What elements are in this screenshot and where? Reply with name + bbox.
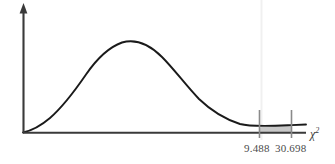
tick-label-lower-critical: 9.488 <box>244 142 270 154</box>
chi-square-density-curve <box>23 41 306 132</box>
distribution-plot <box>0 0 335 164</box>
chi-square-distribution-figure: 9.488 30.698 χ2 <box>0 0 335 164</box>
x-axis-label: χ2 <box>310 126 319 142</box>
chi-exponent: 2 <box>315 126 319 135</box>
y-axis-arrowhead-icon <box>20 3 28 14</box>
tick-label-upper-critical: 30.698 <box>275 142 306 154</box>
